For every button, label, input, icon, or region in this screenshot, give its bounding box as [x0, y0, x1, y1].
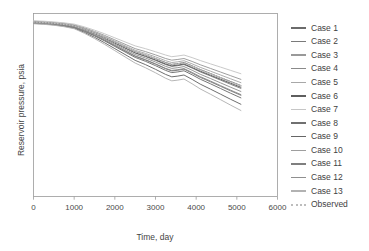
legend-item-label: Case 5: [311, 78, 338, 87]
legend-line-swatch-icon: [291, 38, 306, 45]
chart-legend: Case 1Case 2Case 3Case 4Case 5Case 6Case…: [291, 21, 369, 211]
legend-line-swatch-icon: [291, 119, 306, 126]
legend-line-swatch-icon: [291, 147, 306, 154]
legend-item[interactable]: Case 4: [291, 62, 369, 76]
legend-line-swatch-icon: [291, 174, 306, 181]
legend-line-swatch-icon: [291, 79, 306, 86]
legend-item[interactable]: Case 6: [291, 89, 369, 103]
legend-item-label: Case 12: [311, 173, 343, 182]
legend-item-label: Case 13: [311, 187, 343, 196]
x-tick-label: 0: [31, 203, 36, 212]
legend-item-label: Case 10: [311, 146, 343, 155]
x-tick-label: 4000: [187, 203, 205, 212]
legend-item-label: Case 3: [311, 51, 338, 60]
legend-item-label: Case 6: [311, 92, 338, 101]
legend-item-label: Case 7: [311, 105, 338, 114]
legend-item[interactable]: Case 8: [291, 116, 369, 130]
legend-line-swatch-icon: [291, 51, 306, 58]
x-tick-label: 5000: [228, 203, 246, 212]
legend-line-swatch-icon: [291, 65, 306, 72]
legend-item[interactable]: Case 9: [291, 130, 369, 144]
legend-item-label: Case 11: [311, 159, 342, 168]
x-tick-label: 6000: [269, 203, 287, 212]
legend-dotted-swatch-icon: [291, 201, 306, 208]
legend-line-swatch-icon: [291, 187, 306, 194]
legend-item[interactable]: Case 1: [291, 21, 369, 35]
legend-item[interactable]: Observed: [291, 198, 369, 212]
legend-item-label: Case 2: [311, 37, 338, 46]
legend-line-swatch-icon: [291, 92, 306, 99]
legend-item[interactable]: Case 3: [291, 48, 369, 62]
legend-item-label: Case 4: [311, 64, 338, 73]
legend-item-label: Observed: [311, 200, 348, 209]
legend-item-label: Case 9: [311, 132, 338, 141]
legend-line-swatch-icon: [291, 133, 306, 140]
legend-item[interactable]: Case 10: [291, 143, 369, 157]
legend-item[interactable]: Case 5: [291, 75, 369, 89]
x-tick-label: 1000: [65, 203, 83, 212]
legend-line-swatch-icon: [291, 106, 306, 113]
legend-item-label: Case 8: [311, 119, 338, 128]
legend-item[interactable]: Case 7: [291, 103, 369, 117]
y-axis-title: Reservoir pressure, psia: [16, 64, 26, 156]
x-axis-title: Time, day: [136, 232, 174, 242]
legend-line-swatch-icon: [291, 160, 306, 167]
x-tick-label: 2000: [106, 203, 124, 212]
chart-figure: 0100020003000400050006000 Time, day Rese…: [0, 0, 369, 251]
legend-item-label: Case 1: [311, 24, 338, 33]
x-tick-label: 3000: [147, 203, 165, 212]
legend-item[interactable]: Case 2: [291, 35, 369, 49]
legend-item[interactable]: Case 13: [291, 184, 369, 198]
legend-item[interactable]: Case 11: [291, 157, 369, 171]
legend-item[interactable]: Case 12: [291, 171, 369, 185]
legend-line-swatch-icon: [291, 24, 306, 31]
